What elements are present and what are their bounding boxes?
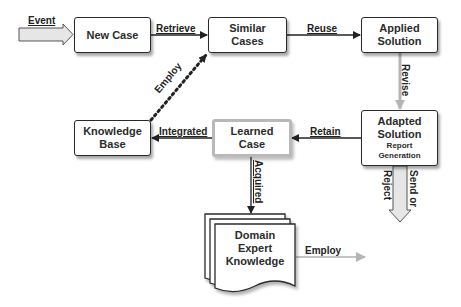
node-label-line1: Adapted [378,115,422,128]
node-label-line1: Knowledge [83,125,142,138]
node-label-line2: Case [239,138,265,151]
edge-label-send-or: Send or [408,170,419,207]
node-domain-expert-knowledge[interactable]: Domain Expert Knowledge [215,229,295,268]
node-label-line1: Domain [215,229,295,242]
event-arrow [19,24,73,45]
node-label-line2: Base [99,138,125,151]
node-sublabel-line1: Report [387,141,413,151]
node-label-line2: Solution [378,35,422,48]
edge-label-employ-expert: Employ [305,245,341,256]
edge-label-integrated: Integrated [159,126,207,137]
edge-label-reuse: Reuse [307,23,337,34]
node-learned-case[interactable]: Learned Case [212,119,292,157]
node-label-line2: Cases [231,35,263,48]
node-knowledge-base[interactable]: Knowledge Base [74,120,151,156]
edge-label-revise: Revise [400,64,411,96]
node-label-line2: Solution [378,128,422,141]
node-applied-solution[interactable]: Applied Solution [361,17,438,53]
edge-label-retrieve: Retrieve [156,23,195,34]
node-new-case[interactable]: New Case [74,17,151,53]
edge-label-event: Event [28,15,55,26]
node-label-line2: Expert [215,242,295,255]
node-label: New Case [87,29,139,42]
node-label-line1: Learned [231,125,274,138]
edge-label-reject: Reject [382,170,393,200]
edge-label-retain: Retain [310,126,341,137]
node-label-line1: Applied [379,22,419,35]
node-label-line3: Knowledge [215,255,295,268]
node-adapted-solution[interactable]: Adapted Solution Report Generation [361,110,438,166]
node-sublabel-line2: Generation [378,151,420,161]
node-similar-cases[interactable]: Similar Cases [208,17,287,53]
edge-label-acquired: Acquired [253,160,264,203]
node-label-line1: Similar [229,22,266,35]
